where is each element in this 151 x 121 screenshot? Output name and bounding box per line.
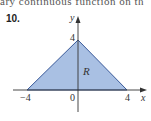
- x-axis-label: x: [141, 93, 145, 103]
- origin-label: 0: [70, 93, 75, 103]
- region-label: R: [83, 66, 90, 77]
- x-tick-4: 4: [125, 93, 130, 103]
- triangle-region: [27, 40, 127, 90]
- y-tick-4: 4: [70, 33, 75, 43]
- y-axis-arrow-icon: [76, 16, 81, 23]
- x-tick-neg-4: −4: [20, 93, 31, 103]
- y-axis-label: y: [70, 13, 74, 23]
